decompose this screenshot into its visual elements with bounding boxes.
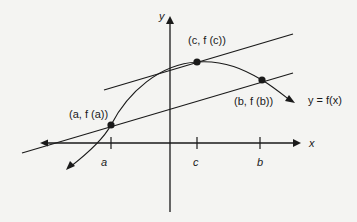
y-axis-label: y [158,10,166,22]
point-label-c: (c, f (c)) [188,34,226,46]
tick-label-a: a [101,156,107,168]
tick-label-b: b [257,156,263,168]
function-label: y = f(x) [308,94,342,106]
secant-line [22,73,293,153]
curve-start-arrow-icon [66,161,75,170]
mvt-diagram: x y a c b (a, f (a)) (c, f (c)) (b, f (b… [0,0,357,222]
point-a [107,121,114,128]
point-label-a: (a, f (a)) [69,108,108,120]
point-b [258,76,265,83]
point-c [193,58,200,65]
point-label-b: (b, f (b)) [234,95,273,107]
tick-label-c: c [193,156,199,168]
x-axis-label: x [308,137,315,149]
curve-end-arrow-icon [285,95,295,103]
